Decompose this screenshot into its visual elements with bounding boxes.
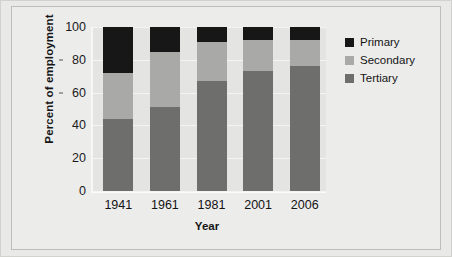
bar-segment-primary[interactable] — [150, 27, 180, 52]
x-axis-tick-label: 1981 — [197, 198, 227, 212]
chart-frame: Percent of employment Year 0204060801001… — [11, 6, 441, 250]
x-axis-tick-label: 2006 — [290, 198, 320, 212]
y-axis-tick-label: 20 — [72, 151, 86, 165]
y-axis-tick-label: 40 — [72, 118, 86, 132]
bar-group[interactable]: 2001 — [243, 27, 273, 191]
bar-segment-tertiary[interactable] — [150, 107, 180, 191]
bar-segment-tertiary[interactable] — [290, 66, 320, 191]
x-axis-tick-label: 1941 — [103, 198, 133, 212]
legend-item[interactable]: Primary — [345, 34, 415, 51]
legend-label: Secondary — [360, 55, 415, 67]
y-axis-tick-label: 0 — [79, 184, 86, 198]
bar-segment-secondary[interactable] — [150, 52, 180, 108]
bar-segment-tertiary[interactable] — [197, 81, 227, 191]
plot-area: 02040608010019411961198120012006 — [91, 27, 326, 193]
figure-container: Percent of employment Year 0204060801001… — [0, 0, 452, 257]
x-axis-tick-label: 2001 — [243, 198, 273, 212]
bar-segment-secondary[interactable] — [243, 40, 273, 71]
bar-segment-secondary[interactable] — [290, 40, 320, 66]
bar-segment-secondary[interactable] — [197, 42, 227, 81]
bar-segment-tertiary[interactable] — [243, 71, 273, 191]
y-axis-tick-mark — [59, 92, 63, 93]
y-axis-tick-label: 100 — [65, 20, 86, 34]
bar-group[interactable]: 1941 — [103, 27, 133, 191]
y-axis-title: Percent of employment — [43, 4, 55, 154]
legend-label: Tertiary — [360, 73, 398, 85]
bar-segment-tertiary[interactable] — [103, 119, 133, 191]
y-axis-tick-label: 80 — [72, 53, 86, 67]
legend-swatch-icon — [345, 38, 354, 47]
legend-swatch-icon — [345, 74, 354, 83]
gridline — [93, 191, 326, 192]
bar-segment-primary[interactable] — [243, 27, 273, 40]
bar-segment-primary[interactable] — [290, 27, 320, 40]
y-axis-tick-mark — [59, 59, 63, 60]
bar-segment-primary[interactable] — [103, 27, 133, 73]
y-axis-tick-label: 60 — [72, 86, 86, 100]
legend-item[interactable]: Tertiary — [345, 70, 415, 87]
legend-label: Primary — [360, 37, 400, 49]
legend-item[interactable]: Secondary — [345, 52, 415, 69]
bar-group[interactable]: 1981 — [197, 27, 227, 191]
chart-legend: PrimarySecondaryTertiary — [345, 34, 415, 88]
x-axis-tick-label: 1961 — [150, 198, 180, 212]
legend-swatch-icon — [345, 56, 354, 65]
bar-segment-secondary[interactable] — [103, 73, 133, 119]
bar-group[interactable]: 1961 — [150, 27, 180, 191]
bar-segment-primary[interactable] — [197, 27, 227, 42]
bar-group[interactable]: 2006 — [290, 27, 320, 191]
x-axis-title: Year — [92, 220, 322, 232]
